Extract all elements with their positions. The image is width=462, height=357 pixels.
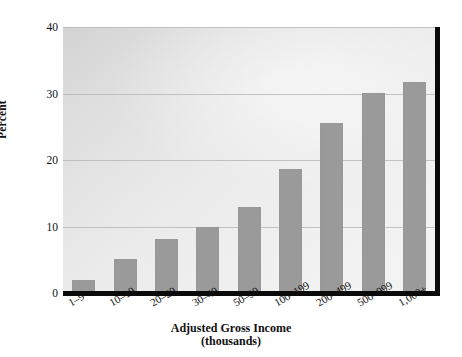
y-tick-label: 0 [52, 287, 58, 299]
bar [362, 93, 385, 293]
y-tick-label: 20 [47, 154, 59, 166]
bar [196, 227, 219, 294]
x-axis-label-sub: (thousands) [0, 335, 462, 348]
y-tick-label: 40 [47, 21, 59, 33]
bar [403, 82, 426, 293]
y-tick-label: 30 [47, 88, 59, 100]
bar-chart-figure: 010203040 Percent 1–910–1920–2930–4950–9… [0, 0, 462, 357]
x-axis-label-main: Adjusted Gross Income [171, 321, 291, 335]
bar [279, 169, 302, 293]
y-tick-label: 10 [47, 221, 59, 233]
x-axis-label: Adjusted Gross Income (thousands) [0, 322, 462, 348]
right-axis-spine [435, 27, 440, 296]
y-axis-label: Percent [0, 100, 8, 139]
bar [238, 207, 261, 293]
plot-area [63, 27, 435, 293]
y-axis-ticks: 010203040 [26, 0, 58, 357]
bar [155, 239, 178, 293]
bar [320, 123, 343, 293]
gridline-40 [63, 27, 435, 28]
